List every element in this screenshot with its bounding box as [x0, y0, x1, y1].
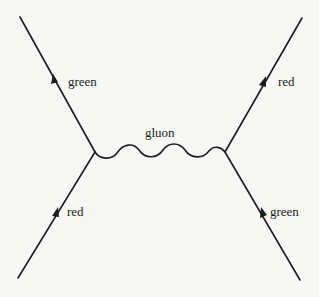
feynman-diagram: green red gluon red green [0, 0, 319, 297]
arrow-icon-bottom-left [52, 207, 59, 217]
label-top-left-quark: green [68, 75, 97, 88]
label-bottom-right-quark: green [270, 205, 299, 218]
label-top-right-quark: red [278, 75, 295, 88]
label-bottom-left-quark: red [67, 205, 84, 218]
diagram-lines [0, 0, 319, 297]
label-gluon: gluon [145, 126, 175, 139]
gluon-wave [95, 144, 225, 158]
arrow-icon-top-right [259, 76, 266, 87]
arrow-icon-bottom-right [260, 207, 267, 218]
